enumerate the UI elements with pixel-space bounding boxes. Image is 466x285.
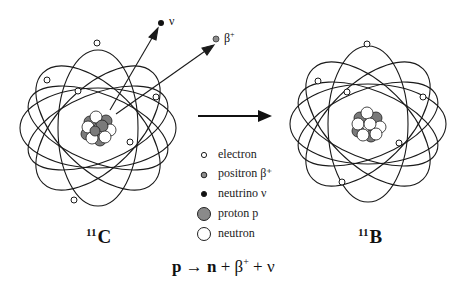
nucleus <box>352 107 386 142</box>
decay-equation: p → n + β+ + ν <box>172 256 275 277</box>
legend-proton-label: proton p <box>218 206 258 221</box>
positron-legend-icon <box>201 172 207 178</box>
positron-label: β+ <box>224 30 235 46</box>
nucleus <box>81 111 116 146</box>
legend-neutron-label: neutron <box>218 226 255 241</box>
legend-positron-label: positron β⁺ <box>218 166 272 181</box>
legend-electron-label: electron <box>218 147 257 162</box>
legend-symbols <box>198 152 211 240</box>
transformation-arrow <box>198 110 272 122</box>
carbon-11-atom <box>15 28 214 211</box>
legend-neutrino-label: neutrino ν <box>218 186 266 201</box>
boron-11-label: 11B <box>358 226 382 248</box>
electron-legend-icon <box>201 152 206 157</box>
emitted-positron-icon <box>213 36 219 42</box>
proton-legend-icon <box>198 208 211 221</box>
carbon-11-label: 11C <box>86 226 111 248</box>
neutron-legend-icon <box>198 228 211 241</box>
neutrino-legend-icon <box>201 191 206 196</box>
boron-11-atom <box>285 41 452 208</box>
emitted-neutrino-icon <box>158 20 164 26</box>
neutrino-label: ν <box>169 14 174 29</box>
